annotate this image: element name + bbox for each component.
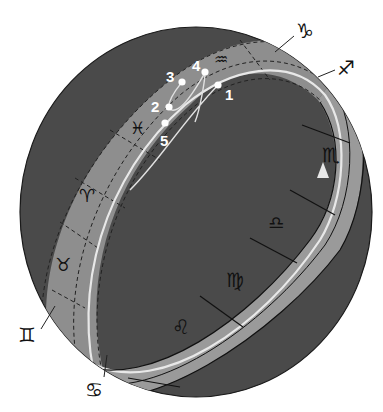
taurus-icon: ♉ — [55, 254, 71, 275]
point-label-2: 2 — [151, 98, 159, 115]
point-4 — [201, 68, 208, 75]
virgo-icon: ♍ — [226, 268, 244, 292]
aries-icon: ♈ — [79, 185, 95, 206]
leader-line-capricorn — [275, 36, 294, 52]
libra-icon: ♎ — [268, 212, 284, 233]
cancer-icon: ♋ — [85, 378, 103, 402]
point-1 — [214, 81, 221, 88]
scorpio-icon: ♏ — [322, 143, 340, 167]
point-3 — [178, 78, 185, 85]
point-label-3: 3 — [166, 68, 174, 85]
point-5 — [161, 119, 168, 126]
point-2 — [165, 103, 172, 110]
aquarius-icon: ♒ — [214, 50, 228, 69]
sagittarius-icon: ♐ — [337, 56, 355, 80]
capricorn-icon: ♑ — [296, 19, 314, 43]
leo-icon: ♌ — [172, 315, 190, 339]
celestial-sphere-diagram: 1 2 3 4 5 ♑ ♐ ♏ ♎ ♍ ♌ ♋ ♊ ♉ ♈ ♓ ♒ — [0, 0, 383, 412]
gemini-icon: ♊ — [18, 323, 36, 347]
leader-line-sagittarius — [318, 70, 335, 77]
pisces-icon: ♓ — [130, 118, 145, 138]
point-label-1: 1 — [225, 86, 233, 103]
point-label-4: 4 — [192, 57, 201, 74]
point-label-5: 5 — [160, 132, 168, 149]
